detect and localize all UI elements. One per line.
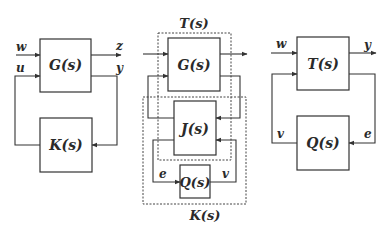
right-diagram: T(s) Q(s) w y v e xyxy=(271,37,376,170)
j-block-label: J(s) xyxy=(178,121,209,137)
signal-u-label: u xyxy=(16,61,25,75)
right-q-block-label: Q(s) xyxy=(306,135,339,151)
right-signal-y-label: y xyxy=(363,38,372,52)
e-signal-label: e xyxy=(159,167,167,181)
right-signal-v-label: v xyxy=(277,127,285,141)
signal-y-arrow xyxy=(91,76,117,145)
k-group-label: K(s) xyxy=(189,208,221,223)
signal-w-label: w xyxy=(16,40,27,54)
middle-diagram: T(s) K(s) G(s) J(s) Q(s) e v xyxy=(143,16,247,223)
right-signal-w-label: w xyxy=(276,37,287,51)
signal-z-label: z xyxy=(115,39,124,53)
controller-block-k-label: K(s) xyxy=(48,137,82,153)
v-signal-label: v xyxy=(222,167,230,181)
plant-block-g-label: G(s) xyxy=(49,57,82,73)
signal-u-arrow xyxy=(15,76,40,145)
left-diagram: G(s) K(s) w u z y xyxy=(15,39,124,172)
t-block-label: T(s) xyxy=(307,56,339,72)
middle-plant-block-label: G(s) xyxy=(177,57,210,73)
right-signal-e-label: e xyxy=(364,127,372,141)
signal-v-arrow xyxy=(272,74,297,143)
block-diagram: G(s) K(s) w u z y T(s) K(s) G(s) J(s) Q(… xyxy=(0,0,389,233)
q-block-label: Q(s) xyxy=(180,175,211,190)
t-group-label: T(s) xyxy=(179,16,208,31)
signal-y-label: y xyxy=(115,61,124,75)
